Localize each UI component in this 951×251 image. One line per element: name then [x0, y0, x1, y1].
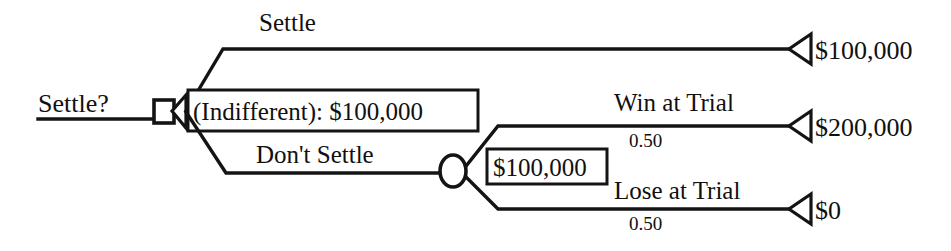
probability-label-win-at-trial: 0.50 [629, 130, 662, 151]
root-question-label: Settle? [38, 89, 109, 118]
rollback-box-chance-text: $100,000 [493, 154, 587, 181]
payoff-label-lose-at-trial: $0 [815, 196, 841, 225]
edge-label-settle: Settle [259, 9, 316, 36]
chance-ellipse-node[interactable] [440, 155, 466, 187]
edge-label-dont-settle: Don't Settle [256, 141, 374, 168]
rollback-box-root-text: (Indifferent): $100,000 [193, 98, 423, 126]
edge-label-win-at-trial: Win at Trial [614, 89, 734, 116]
edge-label-lose-at-trial: Lose at Trial [614, 177, 740, 204]
decision-tree-diagram: Settle? Settle $100,000 (Indifferent): $… [0, 0, 951, 251]
payoff-label-settle: $100,000 [815, 36, 913, 65]
payoff-label-win-at-trial: $200,000 [815, 113, 913, 142]
probability-label-lose-at-trial: 0.50 [629, 213, 662, 234]
